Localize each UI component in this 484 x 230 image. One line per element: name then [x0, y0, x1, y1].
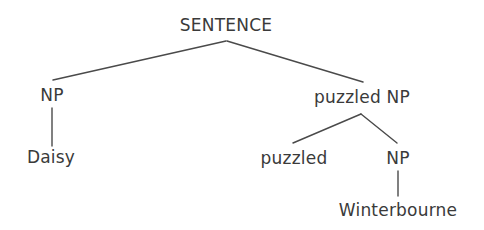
- node-np-left: NP: [40, 85, 63, 105]
- edge-root-to-np: [53, 41, 226, 80]
- node-sentence: SENTENCE: [180, 15, 272, 35]
- edge-puzzled-np-to-np: [361, 114, 397, 143]
- node-np-right: NP: [386, 148, 409, 168]
- node-puzzled: puzzled: [261, 148, 328, 168]
- node-daisy: Daisy: [27, 147, 75, 167]
- node-puzzled-np: puzzled NP: [314, 87, 410, 107]
- node-winterbourne: Winterbourne: [339, 200, 457, 220]
- edge-puzzled-np-to-puzzled: [293, 114, 361, 143]
- edge-root-to-puzzled-np: [227, 41, 363, 82]
